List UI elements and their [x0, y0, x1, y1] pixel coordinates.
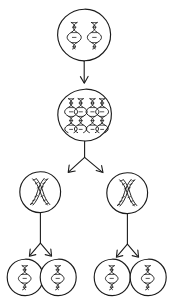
cell-parent-outline — [58, 9, 111, 61]
stage-gamete-cells — [7, 259, 166, 295]
meiosis-diagram-canvas — [0, 0, 176, 302]
arrow-division-1-group — [68, 141, 103, 172]
cell-gamete-2-outline — [40, 259, 76, 295]
cell-gamete-1-outline — [7, 259, 43, 295]
cell-gamete-4-outline — [130, 259, 166, 295]
meiosis-diagram — [0, 0, 176, 302]
arrow-division-2-left-group — [29, 213, 51, 256]
stage-daughter-cells — [20, 172, 148, 214]
stage-replicated-cell — [58, 89, 112, 141]
cell-gamete-3-outline — [94, 259, 130, 295]
arrow-replication — [80, 61, 88, 83]
arrow-division-2-right-group — [116, 214, 138, 257]
stage-parent-cell — [58, 9, 111, 61]
